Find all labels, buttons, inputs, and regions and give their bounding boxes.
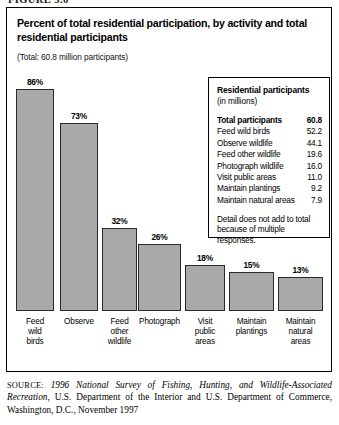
bar-category-label-line: areas [185, 337, 225, 347]
bar-rect [16, 89, 54, 311]
legend-row-value: 52.2 [305, 126, 322, 137]
legend-row-label: Maintain plantings [217, 183, 305, 194]
bar-value-label: 15% [229, 260, 274, 270]
bar-value-label: 18% [185, 253, 225, 263]
bar-category-label: Feedotherwildlife [102, 317, 137, 347]
bar-category-label: Feedwildbirds [16, 317, 54, 347]
bar-category-label-line: Maintain [278, 317, 323, 327]
bar-value-label: 13% [278, 265, 323, 275]
bar-category-label-line: public [185, 327, 225, 337]
legend-row: Feed wild birds52.2 [217, 126, 322, 137]
legend-row-label: Feed other wildlife [217, 149, 305, 160]
legend-row-value: 7.9 [305, 195, 322, 206]
bar-category-label: Observe [60, 317, 98, 327]
bar-category-label-line: areas [278, 337, 323, 347]
bar-category-label-line: plantings [229, 327, 274, 337]
bar-rect [229, 272, 274, 311]
bar-category-label: Photograph [138, 317, 181, 327]
legend-units: (in millions) [217, 96, 322, 106]
bar-category-label-line: wild [16, 327, 54, 337]
figure-caption: FIGURE 3.6 [8, 0, 69, 5]
legend-row: Maintain natural areas7.9 [217, 195, 322, 206]
bar-category-label-line: Photograph [138, 317, 181, 327]
bar-rect [60, 123, 98, 311]
legend-row-label: Visit public areas [217, 172, 305, 183]
bar-value-label: 26% [138, 232, 181, 242]
legend-row: Photograph wildlife16.0 [217, 161, 322, 172]
legend-row-value: 19.6 [305, 149, 322, 160]
legend-row-value: 16.0 [305, 161, 322, 172]
figure-frame: Percent of total residential participati… [6, 7, 332, 372]
legend-row: Observe wildlife44.1 [217, 138, 322, 149]
source-rest: , U.S. Department of the Interior and U.… [7, 392, 332, 414]
bar-rect [278, 277, 323, 311]
bar-value-label: 32% [102, 216, 137, 226]
bar-rect [185, 265, 225, 311]
legend-row: Visit public areas11.0 [217, 172, 322, 183]
legend-row-value: 60.8 [305, 115, 322, 126]
bar-category-label: Maintainnaturalareas [278, 317, 323, 347]
legend-row-label: Total participants [217, 115, 305, 126]
bar-category-label-line: Observe [60, 317, 98, 327]
bar-value-label: 73% [60, 111, 98, 121]
residential-participants-box: Residential participants (in millions) T… [208, 77, 330, 238]
bar-value-label: 86% [16, 77, 54, 87]
legend-row-label: Photograph wildlife [217, 161, 305, 172]
legend-row-value: 11.0 [305, 172, 322, 183]
bar-category-label-line: Feed [102, 317, 137, 327]
legend-heading: Residential participants [217, 85, 322, 95]
bar-rect [138, 244, 181, 311]
legend-row: Feed other wildlife19.6 [217, 149, 322, 160]
bar-category-label-line: Maintain [229, 317, 274, 327]
legend-row-label: Observe wildlife [217, 138, 305, 149]
bar-category-label-line: other [102, 327, 137, 337]
legend-note: Detail does not add to total because of … [217, 214, 322, 245]
legend-row-label: Feed wild birds [217, 126, 305, 137]
legend-row-label: Maintain natural areas [217, 195, 305, 206]
source-label: SOURCE: [7, 381, 44, 390]
bar-category-label-line: birds [16, 337, 54, 347]
source-note: SOURCE: 1996 National Survey of Fishing,… [7, 379, 332, 416]
legend-row: Maintain plantings9.2 [217, 183, 322, 194]
legend-row-value: 44.1 [305, 138, 322, 149]
bar-category-label: Maintainplantings [229, 317, 274, 337]
legend-table: Total participants60.8Feed wild birds52.… [217, 115, 322, 206]
bar-category-label-line: Visit [185, 317, 225, 327]
legend-row: Total participants60.8 [217, 115, 322, 126]
bar-category-label-line: wildlife [102, 337, 137, 347]
bar-category-label: Visitpublicareas [185, 317, 225, 347]
bar-rect [102, 228, 137, 311]
bar-category-label-line: natural [278, 327, 323, 337]
bar-category-label-line: Feed [16, 317, 54, 327]
legend-row-value: 9.2 [305, 183, 322, 194]
